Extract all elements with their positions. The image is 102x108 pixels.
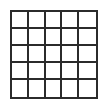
- grid-cell: [12, 80, 29, 97]
- grid-cell: [46, 12, 63, 29]
- grid-cell: [62, 63, 79, 80]
- grid-cell: [12, 29, 29, 46]
- grid-cell: [29, 63, 46, 80]
- grid-cell: [62, 29, 79, 46]
- grid-cell: [12, 63, 29, 80]
- grid-cell: [79, 46, 96, 63]
- grid-cell: [29, 46, 46, 63]
- grid-cell: [62, 80, 79, 97]
- grid-cell: [12, 12, 29, 29]
- grid-cell: [79, 80, 96, 97]
- grid-cell: [62, 12, 79, 29]
- grid-cell: [46, 29, 63, 46]
- empty-grid: [10, 10, 98, 99]
- grid-cell: [29, 29, 46, 46]
- grid-cell: [79, 63, 96, 80]
- grid-cell: [29, 12, 46, 29]
- grid-cell: [79, 29, 96, 46]
- grid-cell: [29, 80, 46, 97]
- grid-cell: [46, 63, 63, 80]
- grid-cell: [79, 12, 96, 29]
- grid-cell: [46, 46, 63, 63]
- grid-cell: [62, 46, 79, 63]
- grid-cell: [12, 46, 29, 63]
- grid-cell: [46, 80, 63, 97]
